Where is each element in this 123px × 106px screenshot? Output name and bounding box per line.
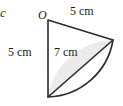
geometry-figure: c O 5 cm 5 cm 7 cm — [0, 0, 123, 106]
left-radius-length-label: 5 cm — [8, 46, 32, 58]
top-radius-length-label: 5 cm — [70, 5, 94, 17]
chord-length-label: 7 cm — [54, 46, 78, 58]
part-letter-label: c — [0, 6, 6, 19]
vertex-o-label: O — [38, 9, 47, 21]
